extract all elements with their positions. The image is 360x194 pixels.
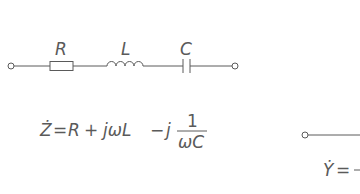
eq-term-r: R	[68, 120, 80, 140]
eq-minus: −	[150, 120, 164, 140]
eq-term-jwl: jωL	[101, 120, 131, 140]
eq-plus: +	[84, 120, 98, 140]
eq-equals: =	[53, 120, 67, 140]
resistor-label: R	[55, 39, 67, 59]
right-terminal	[232, 63, 238, 69]
eq-lhs: Ż	[39, 120, 52, 140]
admittance-equation-partial: Ẏ =	[323, 160, 360, 180]
eq-frac-denominator: ωC	[178, 132, 204, 152]
eq-equals: =	[336, 160, 350, 180]
left-terminal	[302, 132, 308, 138]
left-terminal	[8, 63, 14, 69]
eq-frac-numerator: 1	[187, 111, 198, 131]
resistor-symbol	[50, 62, 73, 71]
eq-term-j: j	[164, 120, 171, 140]
eq-lhs: Ẏ	[323, 160, 335, 180]
diagram-canvas: R L C Ż = R + jωL − j 1 ωC Ẏ =	[0, 0, 360, 194]
impedance-equation: Ż = R + jωL − j 1 ωC	[39, 111, 207, 152]
inductor-label: L	[121, 39, 130, 59]
series-rlc-circuit	[8, 59, 238, 73]
inductor-symbol	[107, 62, 143, 67]
partial-circuit-right	[302, 132, 360, 138]
capacitor-label: C	[180, 39, 192, 59]
